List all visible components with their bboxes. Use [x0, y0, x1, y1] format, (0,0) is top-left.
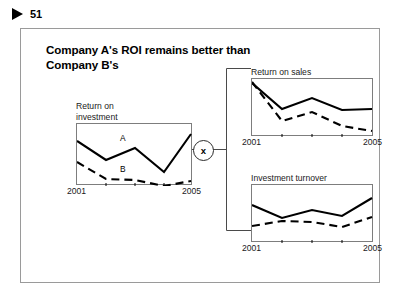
plot-area: A B	[76, 123, 192, 185]
plot-lines	[252, 79, 374, 137]
plot-lines	[77, 124, 193, 186]
chart-title: Return on sales	[251, 67, 385, 78]
series-label-a: A	[120, 133, 126, 143]
chart-return-on-investment: Return on investment A B 200	[58, 101, 198, 198]
chart-return-on-sales: Return on sales 2001 2005	[239, 67, 385, 149]
x-axis: 2001 2005	[251, 136, 373, 149]
plot-area	[251, 78, 373, 136]
x-tick-end: 2005	[363, 243, 382, 253]
page-marker: 51	[12, 8, 42, 20]
series-label-b: B	[120, 164, 126, 174]
slide-frame: Company A's ROI remains better than Comp…	[20, 28, 380, 283]
x-tick-end: 2005	[182, 186, 201, 196]
x-tick-end: 2005	[363, 137, 382, 147]
x-tick-start: 2001	[242, 137, 261, 147]
plot-area	[251, 184, 373, 242]
page-number: 51	[30, 9, 42, 20]
chart-investment-turnover: Investment turnover 2001 2005	[239, 173, 385, 255]
x-tick-start: 2001	[242, 243, 261, 253]
x-tick-start: 2001	[67, 186, 86, 196]
chart-title: Investment turnover	[251, 173, 385, 184]
slide-screenshot: 51 Company A's ROI remains better than C…	[0, 0, 401, 301]
play-triangle-icon	[12, 8, 23, 20]
chart-title: Return on investment	[76, 101, 198, 123]
x-axis: 2001 2005	[76, 185, 192, 198]
plot-lines	[252, 185, 374, 243]
x-axis: 2001 2005	[251, 242, 373, 255]
